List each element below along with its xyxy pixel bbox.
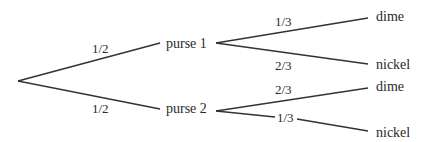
prob-purse1-nickel: 2/3 — [275, 58, 292, 73]
prob-purse1-dime: 1/3 — [275, 14, 292, 29]
node-purse2: purse 2 — [166, 101, 207, 116]
node-purse2-nickel: nickel — [376, 125, 410, 140]
prob-root-purse1: 1/2 — [92, 41, 109, 56]
edge-purse2-dime — [216, 88, 368, 111]
prob-purse2-dime: 2/3 — [275, 82, 292, 97]
prob-root-purse2: 1/2 — [92, 101, 109, 116]
probability-tree-diagram: 1/2 purse 1 1/2 purse 2 1/3 dime 2/3 nic… — [0, 0, 424, 142]
node-purse2-dime: dime — [376, 79, 404, 94]
node-purse1: purse 1 — [166, 36, 207, 51]
edge-root-purse1 — [18, 43, 160, 81]
edge-purse1-dime — [216, 18, 368, 43]
node-purse1-dime: dime — [376, 9, 404, 24]
edge-purse2-nickel-b — [297, 119, 368, 131]
prob-purse2-nickel: 1/3 — [277, 110, 294, 125]
node-purse1-nickel: nickel — [376, 57, 410, 72]
edge-purse1-nickel — [216, 43, 368, 64]
edge-root-purse2 — [18, 81, 160, 109]
edge-purse2-nickel-a — [216, 111, 275, 117]
